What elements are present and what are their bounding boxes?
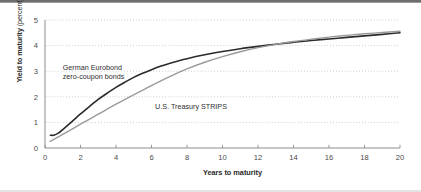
- series-annotation-label: zero-coupon bonds: [63, 72, 125, 81]
- series-annotation-label: German Eurobond: [63, 63, 122, 72]
- y-tick-label: 1: [34, 118, 38, 127]
- y-tick-label: 2: [34, 93, 38, 102]
- x-tick-label: 10: [218, 153, 226, 162]
- y-tick-label: 4: [34, 41, 38, 50]
- x-tick-label: 16: [325, 153, 333, 162]
- y-tick-label: 5: [34, 16, 38, 25]
- x-tick-label: 8: [185, 153, 189, 162]
- x-tick-label: 0: [43, 153, 47, 162]
- series-annotation-label: U.S. Treasury STRIPS: [155, 102, 227, 111]
- x-tick-label: 6: [149, 153, 153, 162]
- y-tick-label: 3: [34, 67, 38, 76]
- chart-plot-area: 012345 02468101214161820 German Eurobond…: [0, 0, 421, 192]
- chart-figure: Yield to maturity (percent) Years to mat…: [0, 0, 421, 192]
- x-tick-label: 12: [254, 153, 262, 162]
- x-tick-label: 18: [360, 153, 368, 162]
- y-tick-label: 0: [34, 144, 38, 153]
- series-line: [50, 31, 400, 141]
- x-tick-label: 2: [78, 153, 82, 162]
- data-series-group: [50, 31, 400, 141]
- x-tick-label: 20: [396, 153, 404, 162]
- series-line: [50, 33, 400, 136]
- y-tick-labels-group: 012345: [34, 16, 38, 153]
- x-tick-label: 4: [114, 153, 118, 162]
- x-tick-label: 14: [289, 153, 297, 162]
- x-tick-labels-group: 02468101214161820: [43, 153, 404, 162]
- chart-annotations-group: German Eurobondzero-coupon bondsU.S. Tre…: [63, 63, 227, 111]
